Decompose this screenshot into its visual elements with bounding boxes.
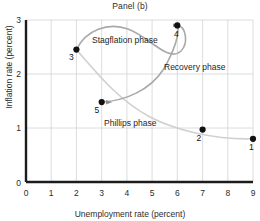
x-tick-label-8: 8 <box>225 188 230 198</box>
annotation-stagflation-phase: Stagflation phase <box>92 35 158 45</box>
data-point-5 <box>99 99 105 105</box>
x-tick-label-3: 3 <box>99 188 104 198</box>
x-tick-label-4: 4 <box>125 188 130 198</box>
data-point-label-2: 2 <box>197 133 202 143</box>
y-tick-label-3: 3 <box>16 15 21 25</box>
x-tick-label-5: 5 <box>150 188 155 198</box>
y-tick-label-1: 1 <box>16 123 21 133</box>
annotation-recovery-phase: Recovery phase <box>164 62 226 72</box>
x-tick-label-2: 2 <box>74 188 79 198</box>
x-axis-label: Unemployment rate (percent) <box>0 209 260 219</box>
data-point-3 <box>73 47 79 53</box>
y-tick-label-0: 0 <box>16 178 21 188</box>
y-tick-label-2: 2 <box>16 69 21 79</box>
data-point-label-3: 3 <box>69 52 74 62</box>
annotation-phillips-phase: Phillips phase <box>104 118 157 128</box>
x-tick-label-1: 1 <box>49 188 54 198</box>
data-point-label-1: 1 <box>249 142 254 152</box>
chart-figure: Panel (b) Inflation rate (percent) <box>0 0 260 221</box>
data-point-label-4: 4 <box>174 29 179 39</box>
x-tick-label-7: 7 <box>200 188 205 198</box>
data-point-2 <box>200 127 206 133</box>
data-point-4 <box>174 22 180 28</box>
data-point-label-5: 5 <box>95 105 100 115</box>
chart-canvas: 1 2 3 4 5 Stagflation phase Recovery pha… <box>0 0 260 221</box>
data-point-1 <box>250 136 256 142</box>
x-tick-label-6: 6 <box>175 188 180 198</box>
x-tick-label-0: 0 <box>24 188 29 198</box>
x-tick-label-9: 9 <box>251 188 256 198</box>
